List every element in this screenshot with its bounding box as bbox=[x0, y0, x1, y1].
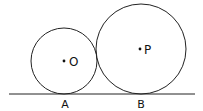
center-dot-p bbox=[139, 48, 142, 51]
label-b: B bbox=[137, 98, 145, 111]
center-dot-o bbox=[63, 60, 66, 63]
label-o: O bbox=[69, 55, 78, 69]
tangent-circles-diagram: O P A B bbox=[0, 0, 203, 110]
label-p: P bbox=[144, 43, 151, 57]
label-a: A bbox=[61, 98, 69, 111]
